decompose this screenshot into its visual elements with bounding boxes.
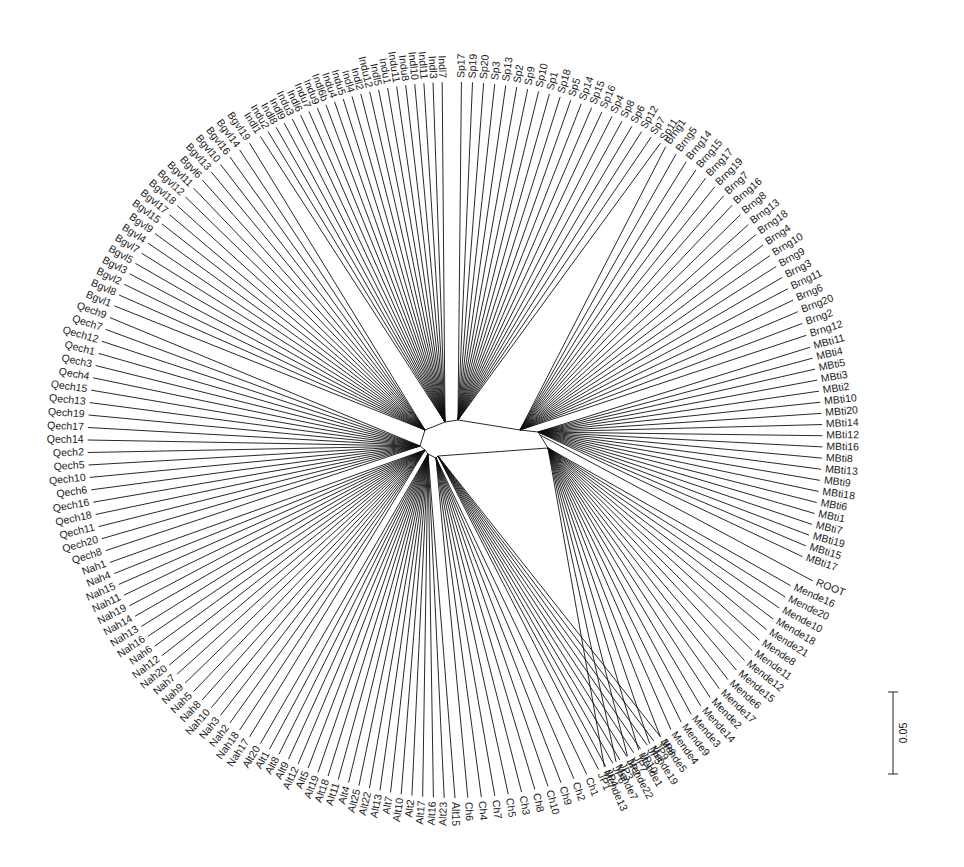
- branch: [114, 306, 425, 430]
- leaf-label: Ch6: [463, 802, 476, 822]
- branch: [220, 450, 425, 716]
- branch: [124, 450, 425, 595]
- branch: [520, 245, 763, 430]
- leaf-label: Ch5: [504, 797, 519, 818]
- branch: [520, 162, 686, 430]
- tree-branches: [88, 82, 823, 798]
- leaf-label: Indl7: [436, 55, 449, 78]
- branch: [110, 318, 420, 446]
- branch: [230, 157, 425, 430]
- branch: [438, 456, 627, 756]
- leaf-label: Qech19: [48, 405, 86, 420]
- branch: [130, 274, 425, 430]
- branch: [458, 143, 660, 420]
- branch: [436, 458, 574, 779]
- branch: [458, 116, 612, 420]
- branch: [538, 432, 806, 546]
- branch: [436, 458, 548, 786]
- branch: [548, 448, 660, 737]
- leaf-label: Qech17: [47, 419, 84, 432]
- branch: [110, 450, 425, 562]
- branch: [124, 284, 425, 430]
- leaf-label: Alt23: [436, 802, 449, 826]
- branch: [170, 215, 425, 430]
- branch: [520, 335, 806, 430]
- leaf-labels: Sp17Sp19Sp20Sp3Sp13Sp2Sp9Sp10Sp1Sp18Sp5S…: [47, 50, 859, 826]
- branch: [102, 341, 420, 446]
- branch: [436, 458, 468, 798]
- branch: [106, 329, 420, 446]
- leaf-label: Ch3: [518, 795, 533, 816]
- leaf-label: Qech2: [53, 445, 84, 458]
- branch: [438, 456, 620, 760]
- branch: [458, 97, 560, 420]
- leaf-label: Qech5: [53, 458, 85, 472]
- branch: [211, 172, 425, 430]
- leaf-label: Ch7: [490, 799, 504, 820]
- branch: [194, 188, 425, 430]
- branch: [177, 450, 425, 674]
- scale-bar-label: 0.05: [897, 723, 909, 744]
- branch: [436, 458, 587, 774]
- branch: [520, 205, 732, 430]
- branch: [289, 454, 428, 759]
- branch: [240, 150, 425, 430]
- branch: [458, 94, 549, 420]
- branch: [211, 450, 425, 708]
- branch: [458, 100, 571, 420]
- branch: [397, 86, 445, 422]
- branch: [96, 446, 420, 514]
- branch: [268, 132, 445, 422]
- branch: [162, 450, 425, 656]
- branch: [270, 454, 428, 749]
- branch: [240, 450, 425, 730]
- branch: [548, 448, 744, 660]
- branch: [520, 312, 798, 430]
- branch: [185, 197, 425, 430]
- branch: [436, 458, 561, 783]
- leaf-label: MBti12: [826, 428, 859, 440]
- branch: [538, 432, 812, 524]
- branch: [520, 178, 706, 430]
- branch: [458, 82, 461, 420]
- branch: [538, 432, 821, 469]
- scale-bar: 0.05: [888, 692, 909, 774]
- leaf-label: Qech14: [47, 433, 84, 445]
- branch: [520, 196, 724, 430]
- branch: [155, 233, 425, 430]
- branch: [458, 121, 622, 420]
- branch: [458, 84, 495, 420]
- branch: [538, 347, 810, 432]
- branch: [538, 402, 820, 432]
- branch: [90, 403, 420, 446]
- branch: [298, 454, 428, 764]
- branch: [391, 454, 428, 792]
- leaf-label: Ch8: [531, 792, 547, 814]
- branch: [260, 136, 445, 422]
- branch: [155, 450, 425, 646]
- leaf-label: Alt15: [450, 802, 462, 826]
- leaf-label: Ch4: [477, 801, 490, 821]
- phylogenetic-tree: Sp17Sp19Sp20Sp3Sp13Sp2Sp9Sp10Sp1Sp18Sp5S…: [0, 0, 964, 867]
- branch: [458, 89, 528, 420]
- branch: [548, 448, 681, 722]
- branch: [538, 432, 817, 502]
